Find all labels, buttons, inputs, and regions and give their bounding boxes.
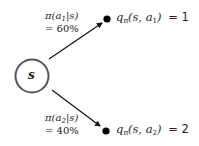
q-value: = 2 [168, 122, 189, 136]
policy-label-action-2: π(a2|s) [45, 113, 78, 125]
action-node-2-dot [102, 127, 109, 134]
q-args: (s, a [128, 122, 153, 136]
probability-action-2: = 40% [45, 126, 79, 136]
q-value: = 1 [168, 10, 189, 24]
policy-prefix: π(a [45, 112, 61, 123]
q-args-close: ) [157, 10, 162, 24]
q-value-label-action-2: qπ(s, a2) = 2 [116, 124, 189, 137]
probability-action-1: = 60% [45, 24, 79, 34]
state-node-label: s [28, 69, 35, 81]
q-value-label-action-1: qπ(s, a1) = 1 [116, 12, 189, 25]
policy-prefix: π(a [45, 10, 61, 21]
q-args-close: ) [157, 122, 162, 136]
action-node-1-dot [103, 15, 110, 22]
q-args: (s, a [128, 10, 153, 24]
policy-label-action-1: π(a1|s) [45, 11, 78, 23]
policy-suffix: |s) [66, 112, 78, 123]
policy-suffix: |s) [66, 10, 78, 21]
